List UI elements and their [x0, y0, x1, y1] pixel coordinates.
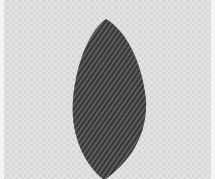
- embroidery-photo: [0, 0, 215, 179]
- embroidered-leaf-illustration: [0, 0, 215, 179]
